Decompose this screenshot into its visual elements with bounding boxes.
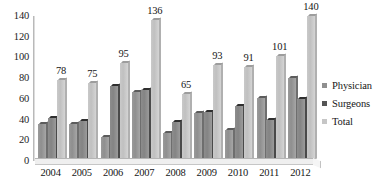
bar-chart: 140120100806040200 787595136659391101140… [0,0,387,190]
bar-face [48,118,56,162]
legend-label: Physician [332,80,372,91]
legend-item-surgeons[interactable]: Surgeons [322,96,386,111]
bar-physician-2005[interactable] [69,124,77,161]
bar-physician-2008[interactable] [163,133,171,161]
legend-swatch-icon [322,83,327,88]
y-axis-tick-label: 140 [0,11,29,21]
bar-cap [80,119,89,121]
legend-swatch-icon [322,119,327,124]
bar-face [38,124,46,161]
legend-item-physician[interactable]: Physician [322,78,386,93]
y-axis-tick-label: 20 [0,135,29,145]
bar-total-2012[interactable] [307,16,315,161]
bar-face [213,65,221,161]
bar-surgeons-2007[interactable] [141,90,149,161]
bar-group: 78 [35,16,66,161]
bar-face [307,16,315,161]
chart-legend: PhysicianSurgeonsTotal [322,78,386,132]
legend-label: Total [332,116,353,127]
bar-side [315,13,317,160]
bar-face [79,121,87,161]
bar-face [69,124,77,161]
y-axis-tick-label: 100 [0,52,29,62]
bar-surgeons-2010[interactable] [235,106,243,161]
bar-total-2009[interactable] [213,65,221,161]
bar-group: 101 [254,16,285,161]
floor-face [35,159,316,165]
bar-surgeons-2012[interactable] [297,99,305,161]
bar-value-label: 136 [142,6,168,16]
bar-cap [49,116,58,118]
bar-group: 65 [160,16,191,161]
x-axis-tick-label: 2007 [128,167,160,179]
bar-face [204,112,212,161]
y-axis: 140120100806040200 [0,14,32,162]
bar-group: 91 [222,16,253,161]
y-axis-tick-label: 0 [0,156,29,166]
bar-group: 93 [191,16,222,161]
bar-face [120,63,128,161]
bar-physician-2011[interactable] [257,98,265,161]
bar-surgeons-2006[interactable] [110,86,118,161]
bar-cap [102,135,111,137]
bar-total-2005[interactable] [88,83,96,161]
bar-face [182,94,190,161]
bar-cap [258,96,267,98]
bar-surgeons-2004[interactable] [48,118,56,162]
y-axis-tick-label: 120 [0,32,29,42]
bar-face [110,86,118,161]
bar-total-2011[interactable] [276,56,284,161]
bar-face [266,120,274,161]
chart-floor [35,158,320,166]
y-axis-tick-label: 40 [0,115,29,125]
bar-surgeons-2011[interactable] [266,120,274,161]
bar-total-2008[interactable] [182,94,190,161]
bar-cap [267,118,276,120]
x-axis-tick-label: 2011 [253,167,285,179]
bar-face [194,113,202,161]
bar-face [225,130,233,161]
bar-face [297,99,305,161]
x-axis-tick-label: 2005 [66,167,98,179]
x-axis-tick-label: 2008 [160,167,192,179]
bar-surgeons-2009[interactable] [204,112,212,161]
x-axis-tick-label: 2009 [191,167,223,179]
bar-group: 140 [285,16,316,161]
bar-surgeons-2008[interactable] [172,122,180,161]
bar-face [132,92,140,161]
y-axis-tick-label: 60 [0,94,29,104]
bar-total-2006[interactable] [120,63,128,161]
x-axis-tick-label: 2010 [222,167,254,179]
bar-face [172,122,180,161]
bar-value-label: 140 [298,2,324,12]
bar-face [257,98,265,161]
bar-physician-2010[interactable] [225,130,233,161]
y-axis-tick-label: 80 [0,73,29,83]
legend-swatch-icon [322,101,327,106]
bar-face [88,83,96,161]
x-axis-tick-label: 2004 [35,167,67,179]
bar-face [244,67,252,161]
bar-group: 95 [97,16,128,161]
bar-group: 136 [129,16,160,161]
plot-area: 787595136659391101140 [35,16,316,161]
bar-physician-2009[interactable] [194,113,202,161]
bar-group: 75 [66,16,97,161]
bar-surgeons-2005[interactable] [79,121,87,161]
bar-face [57,80,65,161]
bar-total-2010[interactable] [244,67,252,161]
bar-physician-2004[interactable] [38,124,46,161]
bar-total-2004[interactable] [57,80,65,161]
bar-face [151,20,159,161]
x-axis-tick-label: 2012 [284,167,316,179]
bar-total-2007[interactable] [151,20,159,161]
bar-face [288,78,296,161]
bar-physician-2007[interactable] [132,92,140,161]
legend-item-total[interactable]: Total [322,114,386,129]
bar-face [163,133,171,161]
bar-face [235,106,243,161]
bar-face [141,90,149,161]
x-axis-tick-label: 2006 [97,167,129,179]
bar-physician-2012[interactable] [288,78,296,161]
legend-label: Surgeons [332,98,370,109]
